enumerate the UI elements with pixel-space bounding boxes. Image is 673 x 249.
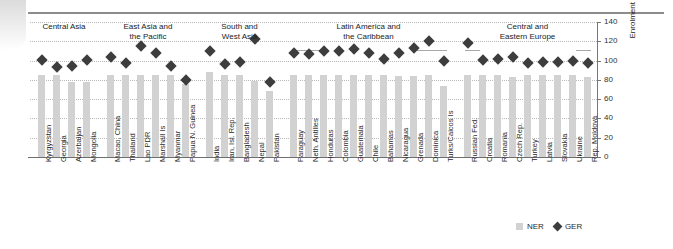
y-tick-label-120: 120 [604,37,617,45]
group-header-central-asia: Central Asia [18,22,110,32]
marker-dominica [423,36,434,47]
marker-thailand [120,58,131,69]
y-tick-mark-100 [597,61,601,62]
marker-mongolia [81,54,92,65]
x-label-russian-fed-: Russian Fed. [471,118,479,162]
y-axis-title: Enrolment ratios (%) [628,48,637,62]
x-label-georgia: Georgia [60,135,68,162]
x-label-rep-moldova: Rep. Moldova [591,116,599,162]
bar-india [206,72,213,157]
group-rule-right-3 [417,50,447,51]
marker-kyrgyzstan [36,54,47,65]
x-label-turkey: Turkey [531,139,539,162]
marker-honduras [318,45,329,56]
y-tick-label-20: 20 [604,134,613,142]
marker-rep-moldova [582,58,593,69]
group-header-central-and: Central and Eastern Europe [482,22,574,41]
group-header-latin-america-and: Latin America and the Caribbean [323,22,415,41]
x-label-nepal: Nepal [258,142,266,162]
y-tick-label-40: 40 [604,114,613,122]
group-header-south-and: South and West Asia [194,22,286,41]
x-label-bangladesh: Bangladesh [243,122,251,162]
y-tick-mark-140 [597,22,601,23]
marker-chile [363,47,374,58]
marker-myanmar [165,61,176,72]
marker-slovakia [552,56,563,67]
marker-turkey [522,58,533,69]
x-label-marshall-is: Marshall Is [159,126,167,162]
x-label-honduras: Honduras [327,129,335,162]
x-label-azerbaijan: Azerbaijan [75,127,83,162]
x-label-mongolia: Mongolia [90,132,98,162]
x-label-paraguay: Paraguay [297,130,305,162]
group-header-east-asia-and: East Asia and the Pacific [102,22,194,41]
marker-croatia [477,54,488,65]
gridline-120 [30,41,597,42]
x-label-dominica: Dominica [432,131,440,162]
x-label-colombia: Colombia [342,130,350,162]
y-tick-label-80: 80 [604,76,613,84]
y-tick-label-60: 60 [604,95,613,103]
x-label-nicaragua: Nicaragua [402,128,410,162]
x-label-lao-pdr: Lao PDR [144,132,152,162]
y-tick-mark-80 [597,80,601,81]
x-label-czech-rep-: Czech Rep. [516,123,524,162]
marker-guatemala [348,43,359,54]
group-rule-left-4 [465,50,480,51]
marker-grenada [408,42,419,53]
y-tick-mark-120 [597,41,601,42]
chart-figure: 020406080100120140 Enrolment ratios (%) … [0,0,673,249]
marker-bangladesh [234,56,245,67]
marker-bahamas [378,53,389,64]
x-label-grenada: Grenada [417,133,425,162]
marker-colombia [333,45,344,56]
x-label-india: India [213,146,221,162]
top-rule [28,12,664,14]
x-label-turks-caicos-is: Turks/Caicos Is [447,111,455,162]
x-label-slovakia: Slovakia [561,134,569,162]
x-label-myanmar: Myanmar [174,131,182,162]
y-tick-label-100: 100 [604,57,617,65]
legend-bar-swatch-icon [516,223,523,230]
y-tick-label-140: 140 [604,18,617,26]
x-label-neth-antilles: Neth. Antilles [312,118,320,162]
marker-nicaragua [393,47,404,58]
marker-ukraine [567,55,578,66]
legend-label-ger: GER [565,222,582,231]
x-label-guatemala: Guatemala [357,125,365,162]
y-tick-mark-60 [597,99,601,100]
x-label-romania: Romania [501,132,509,162]
y-tick-label-0: 0 [604,153,608,161]
marker-azerbaijan [66,61,77,72]
legend-item-ner: NER [516,222,544,231]
x-label-papua-n-guinea: Papua N. Guinea [189,104,197,162]
x-label-chile: Chile [372,145,380,162]
x-label-latvia: Latvia [546,142,554,162]
x-label-croatia: Croatia [486,138,494,162]
marker-russian-fed- [462,38,473,49]
legend-label-ner: NER [527,222,544,231]
legend-diamond-swatch-icon [552,222,562,232]
marker-paraguay [288,47,299,58]
chart-legend: NER GER [516,222,582,231]
x-label-macao-china: Macao, China [114,116,122,162]
x-label-pakistan: Pakistan [273,133,281,162]
marker-turks-caicos-is [438,55,449,66]
marker-pakistan [264,76,275,87]
group-rule-right-4 [576,50,591,51]
marker-latvia [537,56,548,67]
marker-romania [492,53,503,64]
x-label-bahamas: Bahamas [387,130,395,162]
x-label-ukraine: Ukraine [576,136,584,162]
x-label-thailand: Thailand [129,133,137,162]
x-label-iran-isl-rep-: Iran, Isl. Rep. [228,117,236,162]
x-label-kyrgyzstan: Kyrgyzstan [45,125,53,162]
marker-marshall-is [150,47,161,58]
legend-item-ger: GER [554,222,582,231]
marker-india [204,45,215,56]
marker-georgia [51,62,62,73]
